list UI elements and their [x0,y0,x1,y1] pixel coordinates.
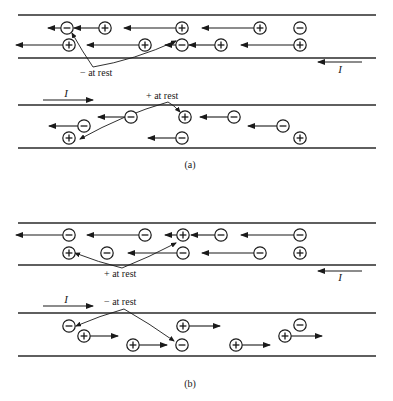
negative-ion-icon [101,247,113,259]
positive-ion-icon [127,339,139,351]
labels-layer: I− at restI+ at restI+ at restI− at rest… [63,63,343,390]
pointer-arrow-icon [80,102,168,139]
negative-ion-icon [215,229,227,241]
pointer-arrow-icon [76,309,124,326]
positive-ion-icon [63,132,75,144]
positive-ion-icon [254,22,266,34]
negative-ion-icon [177,247,189,259]
current-label: I [337,271,343,283]
positive-ion-icon [177,229,189,241]
pointer-arrow-icon [124,309,174,341]
negative-ion-icon [228,111,240,123]
at-rest-label: − at rest [80,67,113,78]
positive-ion-icon [279,330,291,342]
wires-layer [18,15,376,356]
positive-ion-icon [63,247,75,259]
positive-ion-icon [63,39,75,51]
negative-ion-icon [294,22,306,34]
velocity-arrows-layer [16,28,362,345]
current-label: I [63,293,69,305]
negative-ion-icon [176,39,188,51]
panel-caption-a: (a) [184,159,195,171]
positive-ion-icon [139,39,151,51]
panel-caption-b: (b) [184,378,196,390]
positive-ion-icon [294,247,306,259]
negative-ion-icon [294,229,306,241]
current-label: I [63,87,69,99]
negative-ion-icon [63,320,75,332]
positive-ion-icon [99,22,111,34]
positive-ion-icon [230,339,242,351]
at-rest-label: + at rest [104,268,137,279]
positive-ion-icon [78,330,90,342]
positive-ion-icon [177,320,189,332]
positive-ion-icon [294,39,306,51]
negative-ion-icon [277,120,289,132]
annotations-layer [72,33,180,341]
negative-ion-icon [176,132,188,144]
positive-ion-icon [294,132,306,144]
conduction-diagram: I− at restI+ at restI+ at restI− at rest… [0,0,393,401]
negative-ion-icon [176,339,188,351]
negative-ion-icon [61,22,73,34]
negative-ion-icon [254,247,266,259]
negative-ion-icon [139,229,151,241]
negative-ion-icon [63,229,75,241]
negative-ion-icon [125,111,137,123]
positive-ion-icon [176,22,188,34]
positive-ion-icon [179,111,191,123]
pointer-arrow-icon [168,102,180,112]
at-rest-label: − at rest [104,296,137,307]
at-rest-label: + at rest [146,90,179,101]
negative-ion-icon [78,120,90,132]
positive-ion-icon [215,39,227,51]
pointer-arrow-icon [72,33,93,67]
negative-ion-icon [294,319,306,331]
pointer-arrow-icon [75,253,122,268]
current-label: I [337,63,343,75]
pointer-arrow-icon [122,243,176,268]
